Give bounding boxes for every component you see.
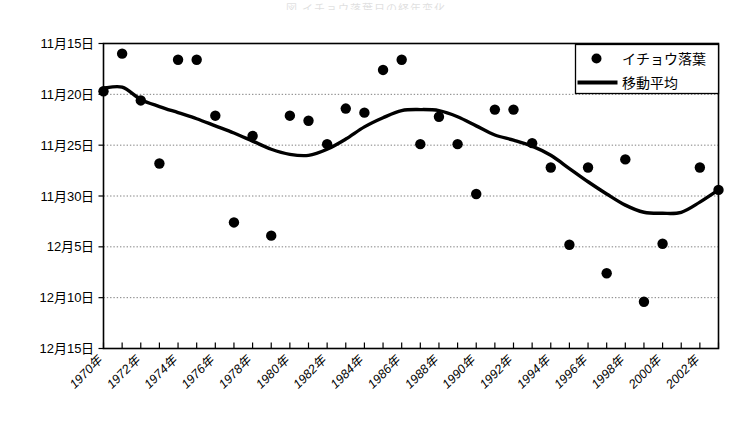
x-axis-tick-label: 1998年 — [589, 352, 628, 391]
data-point[interactable] — [657, 239, 667, 249]
data-point[interactable] — [452, 139, 462, 149]
data-point[interactable] — [564, 240, 574, 250]
y-axis-tick-label: 11月25日 — [41, 138, 95, 153]
data-point[interactable] — [378, 65, 388, 75]
x-axis-ticks — [104, 343, 719, 349]
x-axis-tick-label: 1976年 — [179, 352, 218, 391]
x-axis-tick-label: 1992年 — [477, 352, 516, 391]
data-point[interactable] — [136, 95, 146, 105]
x-axis-tick-label: 1984年 — [328, 352, 367, 391]
x-axis-tick-label: 1980年 — [253, 352, 292, 391]
y-axis-tick-label: 11月15日 — [41, 36, 95, 51]
x-axis-tick-label: 1974年 — [141, 352, 180, 391]
data-point[interactable] — [359, 107, 369, 117]
data-point[interactable] — [210, 110, 220, 120]
data-point[interactable] — [98, 86, 108, 96]
data-point[interactable] — [434, 112, 444, 122]
data-point[interactable] — [154, 158, 164, 168]
x-axis-tick-label: 1970年 — [67, 352, 106, 391]
data-point[interactable] — [639, 297, 649, 307]
x-axis-tick-labels: 1970年1972年1974年1976年1978年1980年1982年1984年… — [67, 352, 703, 392]
data-point[interactable] — [117, 48, 127, 58]
data-point[interactable] — [303, 116, 313, 126]
data-point[interactable] — [695, 162, 705, 172]
x-axis-tick-label: 1996年 — [551, 352, 590, 391]
x-axis-tick-label: 1994年 — [514, 352, 553, 391]
y-axis-tick-label: 12月5日 — [47, 239, 95, 254]
y-axis-tick-labels: 11月15日11月20日11月25日11月30日12月5日12月10日12月15… — [40, 36, 95, 356]
data-point[interactable] — [583, 162, 593, 172]
chart-legend: イチョウ落葉移動平均 — [576, 45, 719, 94]
data-point[interactable] — [490, 104, 500, 114]
data-point[interactable] — [415, 139, 425, 149]
data-point[interactable] — [620, 154, 630, 164]
x-axis-tick-label: 1978年 — [216, 352, 255, 391]
data-point[interactable] — [191, 55, 201, 65]
x-axis-tick-label: 1988年 — [402, 352, 441, 391]
legend-item-label[interactable]: イチョウ落葉 — [622, 51, 706, 67]
data-point[interactable] — [266, 230, 276, 240]
data-point[interactable] — [713, 185, 723, 195]
data-point[interactable] — [527, 138, 537, 148]
legend-item-label[interactable]: 移動平均 — [622, 75, 678, 91]
chart-svg: 11月15日11月20日11月25日11月30日12月5日12月10日12月15… — [0, 0, 732, 440]
y-axis-tick-label: 12月15日 — [40, 341, 95, 356]
y-axis-tick-label: 12月10日 — [40, 290, 95, 305]
x-axis-tick-label: 1990年 — [440, 352, 479, 391]
chart-page: 図 イチョウ落葉日の経年変化 11月15日11月20日11月25日11月30日1… — [0, 0, 732, 440]
y-axis-tick-label: 11月20日 — [41, 87, 95, 102]
data-point[interactable] — [546, 162, 556, 172]
data-point[interactable] — [508, 104, 518, 114]
x-axis-tick-label: 1972年 — [104, 352, 143, 391]
x-axis-tick-label: 2000年 — [625, 352, 665, 392]
x-axis-tick-label: 1986年 — [365, 352, 404, 391]
data-point[interactable] — [285, 110, 295, 120]
data-point[interactable] — [229, 217, 239, 227]
data-point[interactable] — [247, 131, 257, 141]
data-point[interactable] — [396, 55, 406, 65]
x-axis-tick-label: 2002年 — [663, 352, 703, 392]
data-point[interactable] — [341, 103, 351, 113]
data-point[interactable] — [173, 55, 183, 65]
legend-dot-icon — [592, 54, 602, 64]
y-axis-tick-label: 11月30日 — [41, 189, 95, 204]
x-axis-tick-label: 1982年 — [290, 352, 329, 391]
data-point[interactable] — [471, 189, 481, 199]
data-point[interactable] — [322, 139, 332, 149]
data-point[interactable] — [601, 268, 611, 278]
moving-average-line — [104, 87, 719, 214]
